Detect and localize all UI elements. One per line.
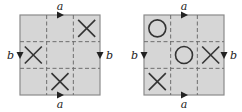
- left-board: aabb: [0, 0, 121, 112]
- right-board: aabb: [121, 0, 242, 112]
- left-board-svg: aabb: [0, 0, 121, 112]
- edge-label-right: b: [106, 49, 113, 62]
- edge-label-top: a: [181, 0, 188, 13]
- right-board-svg: aabb: [121, 0, 242, 112]
- edge-label-left: b: [7, 49, 14, 62]
- edge-label-left: b: [131, 49, 138, 62]
- edge-label-right: b: [230, 49, 237, 62]
- edge-label-top: a: [57, 0, 64, 13]
- edge-label-bottom: a: [181, 98, 188, 111]
- edge-label-bottom: a: [57, 98, 64, 111]
